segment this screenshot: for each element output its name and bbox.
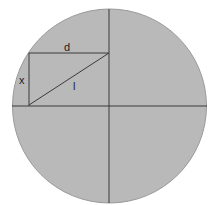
label-d: d <box>64 41 70 53</box>
label-l: l <box>73 80 75 92</box>
circle-diagram: d x l <box>0 0 212 205</box>
label-x: x <box>19 74 25 86</box>
